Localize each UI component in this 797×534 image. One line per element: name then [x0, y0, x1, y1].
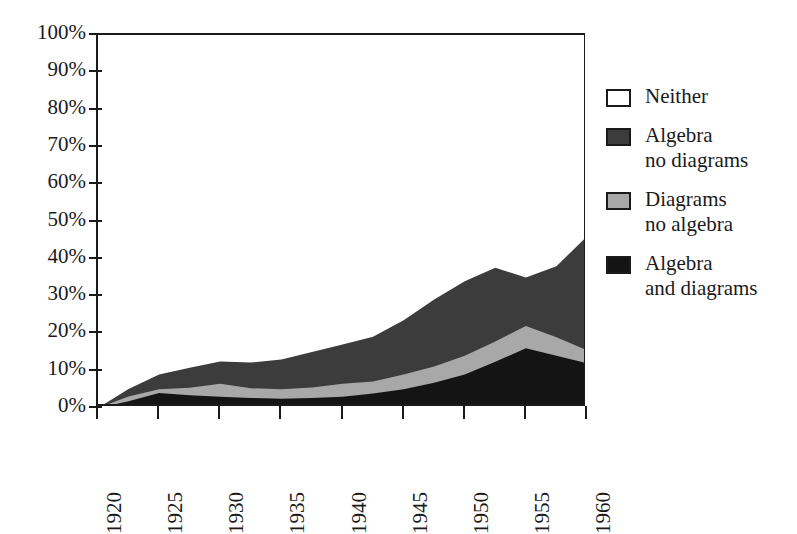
legend-entry: Algebra and diagrams	[606, 251, 794, 301]
x-tick-mark	[524, 406, 526, 419]
y-tick-mark	[89, 331, 102, 333]
x-tick-mark	[218, 406, 220, 419]
x-tick-mark	[402, 406, 404, 419]
legend-label: Algebra no diagrams	[645, 123, 748, 173]
y-tick-label: 10%	[8, 358, 86, 379]
legend-entry: Algebra no diagrams	[606, 123, 794, 173]
legend-entry: Diagrams no algebra	[606, 187, 794, 237]
legend-label: Diagrams no algebra	[645, 187, 733, 237]
x-tick-mark	[585, 406, 587, 419]
y-tick-mark	[89, 33, 102, 35]
y-axis: 100%90%80%70%60%50%40%30%20%10%0%	[0, 0, 86, 497]
x-tick-label: 1920	[104, 492, 125, 534]
x-tick-mark	[157, 406, 159, 419]
x-tick-mark	[463, 406, 465, 419]
x-tick-label: 1960	[593, 492, 614, 534]
x-tick-label: 1950	[471, 492, 492, 534]
legend-swatch-icon	[606, 192, 631, 210]
y-tick-label: 30%	[8, 283, 86, 304]
x-tick-label: 1925	[165, 492, 186, 534]
legend-swatch-icon	[606, 128, 631, 146]
legend-entry: Neither	[606, 84, 794, 109]
y-tick-mark	[89, 257, 102, 259]
x-tick-mark	[279, 406, 281, 419]
x-tick-label: 1935	[287, 492, 308, 534]
chart-legend: NeitherAlgebra no diagramsDiagrams no al…	[606, 84, 794, 315]
legend-label: Algebra and diagrams	[645, 251, 758, 301]
legend-label: Neither	[645, 84, 708, 109]
legend-swatch-icon	[606, 256, 631, 274]
legend-swatch-icon	[606, 89, 631, 107]
y-tick-label: 100%	[8, 22, 86, 43]
y-tick-mark	[89, 182, 102, 184]
x-tick-label: 1955	[532, 492, 553, 534]
y-tick-mark	[89, 294, 102, 296]
y-tick-mark	[89, 108, 102, 110]
x-tick-label: 1945	[410, 492, 431, 534]
y-tick-label: 90%	[8, 59, 86, 80]
y-tick-mark	[89, 369, 102, 371]
y-tick-label: 80%	[8, 97, 86, 118]
stacked-area-plot	[98, 35, 585, 406]
y-tick-label: 0%	[8, 395, 86, 416]
y-tick-mark	[89, 406, 102, 408]
x-tick-label: 1930	[226, 492, 247, 534]
y-tick-label: 40%	[8, 246, 86, 267]
plot-area	[96, 33, 585, 406]
y-tick-label: 60%	[8, 171, 86, 192]
y-tick-label: 20%	[8, 320, 86, 341]
x-tick-label: 1940	[349, 492, 370, 534]
y-tick-label: 50%	[8, 209, 86, 230]
y-tick-mark	[89, 145, 102, 147]
y-tick-mark	[89, 220, 102, 222]
y-tick-label: 70%	[8, 134, 86, 155]
y-tick-mark	[89, 70, 102, 72]
x-tick-mark	[341, 406, 343, 419]
